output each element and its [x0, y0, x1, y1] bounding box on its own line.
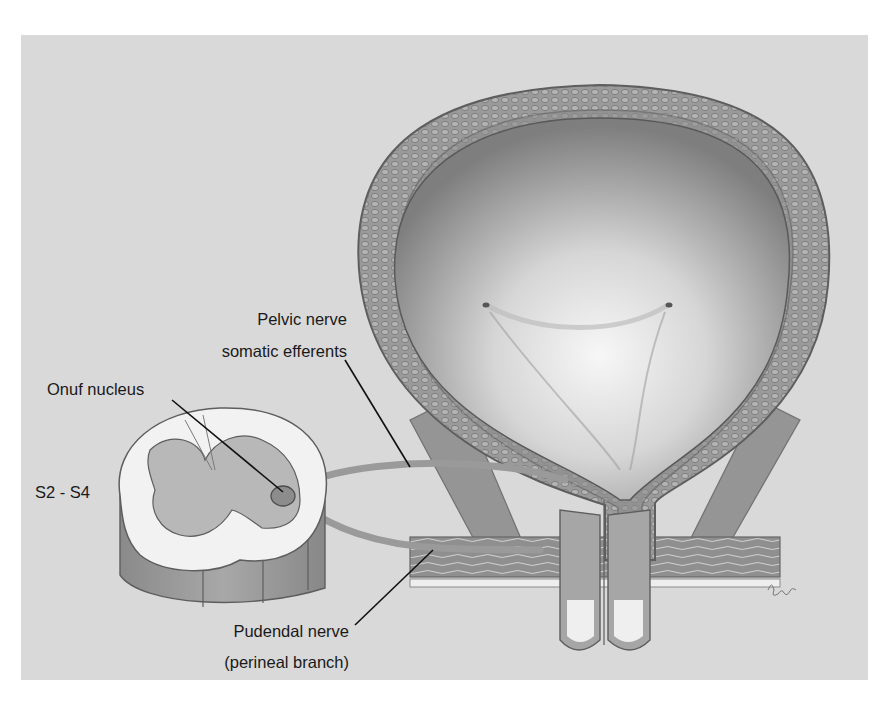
label-pelvic-nerve: Pelvic nerve somatic efferents — [222, 310, 347, 361]
anatomy-illustration — [0, 0, 884, 701]
spinal-cord-segment — [119, 408, 326, 607]
label-pudendal-nerve-line1: Pudendal nerve — [224, 622, 349, 641]
label-pudendal-nerve: Pudendal nerve (perineal branch) — [224, 622, 349, 672]
pelvic-nerve — [288, 463, 565, 492]
ureteral-orifice-right — [666, 303, 673, 308]
ureteral-orifice-left — [483, 303, 490, 308]
label-onuf-nucleus: Onuf nucleus — [47, 380, 144, 399]
onuf-nucleus — [271, 486, 295, 506]
label-pelvic-nerve-line1: Pelvic nerve — [222, 310, 347, 329]
label-spinal-level: S2 - S4 — [35, 483, 90, 502]
leader-line-pudendal — [355, 550, 433, 625]
label-pudendal-nerve-line2: (perineal branch) — [224, 653, 349, 672]
label-pelvic-nerve-line2: somatic efferents — [222, 342, 347, 361]
